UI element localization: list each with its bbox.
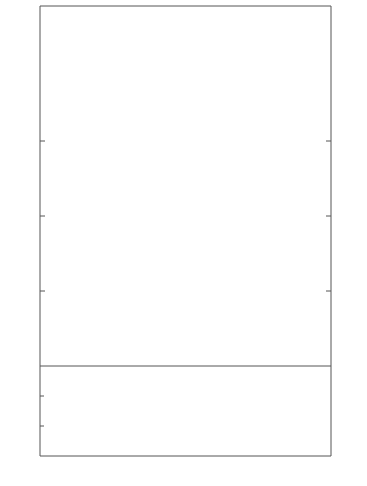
chart-frame bbox=[40, 6, 331, 456]
figure bbox=[0, 0, 367, 486]
left-axis bbox=[40, 141, 45, 291]
right-axis bbox=[326, 141, 331, 291]
temperature-axis bbox=[40, 396, 44, 426]
